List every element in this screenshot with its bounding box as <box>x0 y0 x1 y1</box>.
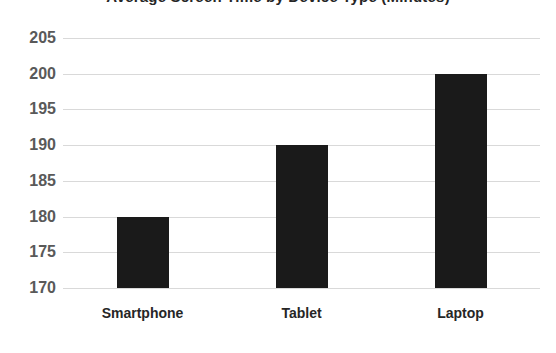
y-tick-label: 200 <box>6 66 56 82</box>
y-tick-label: 180 <box>6 209 56 225</box>
y-tick-label: 205 <box>6 30 56 46</box>
plot-area <box>63 38 540 288</box>
bar-smartphone[interactable] <box>117 217 169 288</box>
chart-title: Average Screen Time by Device Type (Minu… <box>0 0 556 5</box>
gridline-205 <box>63 38 540 39</box>
x-tick-label-laptop: Laptop <box>437 303 484 323</box>
bar-tablet[interactable] <box>276 145 328 288</box>
y-tick-label: 170 <box>6 280 56 296</box>
x-tick-label-tablet: Tablet <box>281 303 321 323</box>
y-axis: 205200195190185180175170 <box>0 0 56 353</box>
y-tick-label: 195 <box>6 101 56 117</box>
y-tick-label: 190 <box>6 137 56 153</box>
x-axis: SmartphoneTabletLaptop <box>0 303 556 329</box>
y-tick-label: 175 <box>6 244 56 260</box>
bar-chart: Average Screen Time by Device Type (Minu… <box>0 0 556 353</box>
y-tick-label: 185 <box>6 173 56 189</box>
gridline-170 <box>63 288 540 289</box>
bar-laptop[interactable] <box>435 74 487 288</box>
x-tick-label-smartphone: Smartphone <box>102 303 184 323</box>
